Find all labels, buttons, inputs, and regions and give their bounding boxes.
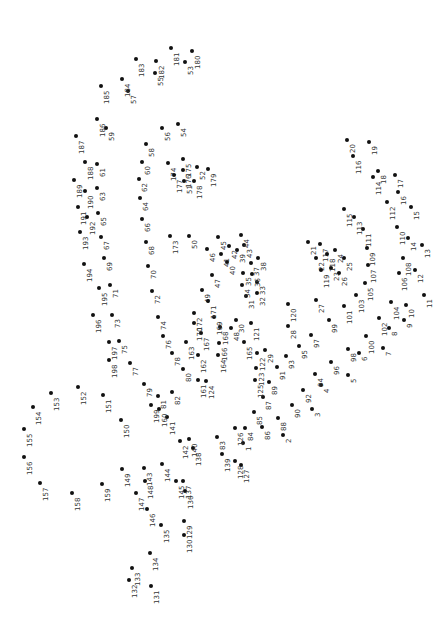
dot-number-label: 165: [247, 347, 254, 360]
dot-number-label: 119: [324, 275, 331, 288]
dot-number-label: 172: [197, 318, 204, 331]
puzzle-dot: [286, 324, 290, 328]
puzzle-dot: [95, 186, 99, 190]
dot-number-label: 28: [291, 330, 298, 339]
dot-number-label: 95: [302, 350, 309, 359]
dot-number-label: 80: [186, 373, 193, 382]
dot-number-label: 88: [281, 422, 288, 431]
puzzle-dot: [91, 313, 95, 317]
dot-number-label: 125: [258, 385, 265, 398]
dot-number-label: 102: [382, 323, 389, 336]
dot-number-label: 124: [209, 386, 216, 399]
puzzle-dot: [176, 122, 180, 126]
puzzle-dot: [38, 481, 42, 485]
dot-number-label: 107: [371, 270, 378, 283]
dot-number-label: 5: [351, 379, 358, 383]
puzzle-dot: [31, 405, 35, 409]
puzzle-dot: [204, 379, 208, 383]
puzzle-dot: [420, 243, 424, 247]
puzzle-dot: [393, 173, 397, 177]
puzzle-dot: [367, 140, 371, 144]
dot-number-label: 158: [75, 498, 82, 511]
dot-number-label: 180: [195, 56, 202, 69]
dot-number-label: 68: [149, 246, 156, 255]
dot-number-label: 121: [254, 328, 261, 341]
puzzle-dot: [99, 235, 103, 239]
puzzle-dot: [200, 288, 204, 292]
dot-number-label: 90: [295, 409, 302, 418]
dot-number-label: 196: [96, 320, 103, 333]
puzzle-dot: [148, 551, 152, 555]
dot-number-label: 140: [192, 444, 199, 457]
puzzle-dot: [255, 351, 259, 355]
puzzle-dot: [276, 416, 280, 420]
puzzle-dot: [205, 247, 209, 251]
dot-number-label: 104: [394, 307, 401, 320]
puzzle-dot: [401, 256, 405, 260]
dot-number-label: 179: [211, 174, 218, 187]
dot-number-label: 17: [398, 179, 405, 188]
dot-number-label: 171: [211, 306, 218, 319]
puzzle-dot: [159, 523, 163, 527]
puzzle-dot: [190, 49, 194, 53]
dot-number-label: 145: [179, 486, 186, 499]
puzzle-dot: [160, 126, 164, 130]
puzzle-dot: [346, 373, 350, 377]
dot-number-label: 64: [143, 202, 150, 211]
dot-number-label: 46: [210, 253, 217, 262]
dot-number-label: 14: [411, 242, 418, 251]
puzzle-dot: [97, 286, 101, 290]
dot-number-label: 94: [318, 378, 325, 387]
puzzle-dot: [119, 418, 123, 422]
dot-number-label: 103: [359, 300, 366, 313]
puzzle-dot: [327, 318, 331, 322]
dot-number-label: 48: [234, 332, 241, 341]
puzzle-dot: [169, 46, 173, 50]
dot-number-label: 152: [81, 392, 88, 405]
puzzle-dot: [182, 533, 186, 537]
dot-number-label: 82: [175, 396, 182, 405]
puzzle-dot: [385, 200, 389, 204]
puzzle-dot: [108, 283, 112, 287]
dot-number-label: 143: [147, 473, 154, 486]
puzzle-dot: [96, 211, 100, 215]
dot-number-label: 35: [246, 277, 253, 286]
dot-number-label: 187: [79, 141, 86, 154]
dot-number-label: 43: [247, 249, 254, 258]
dot-number-label: 113: [357, 222, 364, 235]
dot-number-label: 10: [409, 309, 416, 318]
dot-number-label: 195: [102, 293, 109, 306]
dot-number-label: 8: [392, 332, 399, 336]
puzzle-dot: [241, 271, 245, 275]
dot-number-label: 74: [161, 321, 168, 330]
dot-number-label: 144: [165, 469, 172, 482]
dot-number-label: 120: [291, 309, 298, 322]
puzzle-dot: [252, 410, 256, 414]
dot-number-label: 4: [324, 389, 331, 393]
puzzle-dot: [286, 302, 290, 306]
puzzle-dot: [363, 281, 367, 285]
puzzle-dot: [301, 388, 305, 392]
dot-number-label: 63: [100, 192, 107, 201]
puzzle-dot: [233, 459, 237, 463]
puzzle-dot: [342, 207, 346, 211]
dot-number-label: 40: [230, 266, 237, 275]
puzzle-dot: [229, 326, 233, 330]
dot-number-label: 66: [145, 223, 152, 232]
dot-number-label: 52: [200, 171, 207, 180]
dot-number-label: 194: [87, 269, 94, 282]
dot-number-label: 100: [369, 341, 376, 354]
puzzle-dot: [95, 162, 99, 166]
puzzle-dot: [137, 177, 141, 181]
puzzle-dot: [134, 57, 138, 61]
dot-number-label: 92: [306, 394, 313, 403]
dot-number-label: 199: [154, 410, 161, 423]
puzzle-dot: [85, 215, 89, 219]
puzzle-dot: [325, 252, 329, 256]
puzzle-dot: [342, 304, 346, 308]
dot-number-label: 38: [261, 262, 268, 271]
dot-number-label: 128: [238, 466, 245, 479]
puzzle-dot: [150, 289, 154, 293]
puzzle-dot: [149, 403, 153, 407]
dot-number-label: 139: [225, 459, 232, 472]
